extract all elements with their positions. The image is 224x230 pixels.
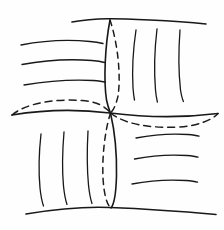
hidden-vertical-arc-lower <box>103 113 111 208</box>
ruling-group-bottom-right <box>132 134 199 184</box>
center-vertical-edge-lower <box>111 113 117 208</box>
ruling-line <box>179 30 183 102</box>
ruling-line <box>63 132 67 205</box>
ruling-line <box>87 131 92 204</box>
bottom-boundary-edge <box>26 207 216 214</box>
ruling-line <box>133 30 136 100</box>
ruling-line <box>135 155 199 159</box>
ruling-line <box>24 80 106 85</box>
center-vertical-edge-upper <box>105 20 111 113</box>
top-boundary-edge <box>72 19 206 24</box>
ruling-group-top-right <box>133 29 184 102</box>
hidden-vertical-arc-upper <box>110 20 119 113</box>
ruling-line <box>22 60 105 65</box>
saddle-surface-drawing <box>0 0 224 230</box>
ruling-group-top-left <box>21 41 106 85</box>
ruling-line <box>21 41 103 45</box>
ruling-line <box>39 134 43 206</box>
ruling-line <box>132 180 198 184</box>
ruling-line <box>155 29 158 102</box>
sketch-canvas <box>0 0 224 230</box>
ruling-group-bottom-left <box>39 131 92 206</box>
ruling-line <box>136 134 199 138</box>
